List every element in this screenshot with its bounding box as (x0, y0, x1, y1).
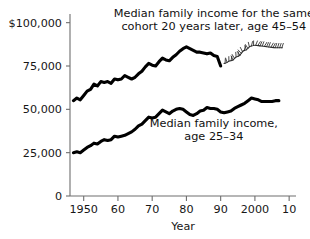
chart-annotations: YearMedian family income for the samecoh… (114, 7, 310, 233)
x-axis-tick-label: 2000 (241, 203, 269, 216)
y-axis-tick-label: 75,000 (23, 60, 62, 73)
projection-hatch-mark (240, 47, 242, 51)
annotation-line: Median family income, (150, 117, 278, 130)
projection-hatch-mark (264, 42, 266, 46)
y-axis-tick-label: 50,000 (23, 103, 62, 116)
projection-hatch-mark (282, 43, 283, 47)
annotation-line: Median family income for the same (114, 7, 310, 20)
projection-hatch-mark (269, 43, 271, 47)
chart-container: 025,00050,00075,000$100,0001950607080902… (0, 0, 310, 239)
annotation-line: age 25–34 (184, 130, 243, 143)
y-axis-tick-label: $100,000 (9, 17, 62, 30)
x-axis-tick-label: 1950 (69, 203, 97, 216)
y-axis-tick-label: 0 (55, 190, 62, 203)
projection-hatch-mark (271, 43, 273, 47)
upper-series-label: Median family income for the samecohort … (114, 7, 310, 33)
x-axis-tick-label: 70 (145, 203, 159, 216)
x-axis-tick-label: 60 (111, 203, 125, 216)
projection-hatch-mark (273, 44, 275, 48)
projection-hatch-mark (232, 55, 234, 59)
x-axis-title: Year (170, 220, 195, 233)
projection-hatch-mark (248, 42, 249, 46)
lower-series-label: Median family income,age 25–34 (150, 117, 278, 143)
income-line-chart: 025,00050,00075,000$100,0001950607080902… (0, 0, 310, 239)
y-axis-tick-label: 25,000 (23, 147, 62, 160)
x-axis-tick-label: 10 (282, 203, 296, 216)
projection-hatch-mark (267, 43, 269, 47)
chart-series (73, 41, 283, 153)
projection-hatch-mark (258, 42, 260, 46)
projection-hatch-mark (226, 58, 227, 62)
series-line (73, 47, 220, 101)
projection-hatch-mark (277, 43, 278, 47)
projection-hatch-mark (262, 42, 264, 46)
projection-hatch-mark (275, 43, 276, 47)
annotation-line: cohort 20 years later, age 45–54 (121, 20, 306, 33)
projection-hatch-mark (256, 41, 258, 45)
x-axis-tick-label: 90 (214, 203, 228, 216)
projection-spine (224, 45, 282, 63)
x-axis-tick-label: 80 (179, 203, 193, 216)
projection-hatch-mark (280, 43, 281, 47)
